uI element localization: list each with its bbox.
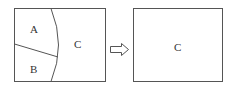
right-panel: C: [134, 9, 223, 82]
left-panel-border: [15, 9, 106, 82]
curved-divider: [51, 9, 59, 82]
diagram-canvas: A B C C: [0, 0, 236, 90]
left-panel: A B C: [15, 9, 106, 82]
arrow-right-icon: [111, 44, 129, 56]
region-a-label: A: [30, 23, 38, 35]
region-c-left-label: C: [74, 38, 81, 50]
straight-divider: [15, 44, 59, 57]
region-c-right-label: C: [174, 41, 181, 53]
region-b-label: B: [30, 63, 37, 75]
